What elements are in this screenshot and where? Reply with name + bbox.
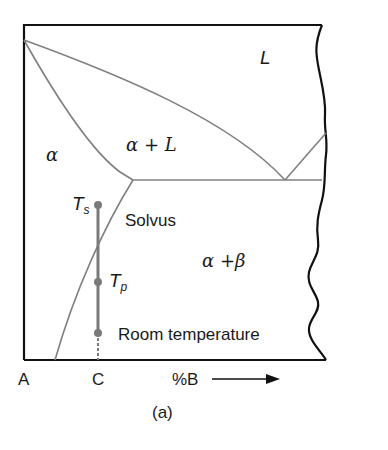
- region-liquid-label: L: [260, 48, 271, 67]
- axis-label-c: C: [92, 371, 104, 388]
- axis-label-percent-b: %B: [172, 371, 198, 388]
- region-alpha-plus-beta-label: α +β: [202, 252, 245, 270]
- diagram-frame: [24, 25, 322, 360]
- wavy-break-edge: [308, 25, 326, 360]
- liquidus-line-beta: [285, 133, 326, 180]
- composition-arrow-head: [266, 374, 280, 384]
- axis-label-a: A: [18, 371, 29, 388]
- figure-caption: (a): [152, 404, 173, 421]
- room-temperature-label: Room temperature: [118, 326, 260, 343]
- region-alpha-label: α: [46, 146, 58, 164]
- point-tp: [94, 278, 102, 286]
- ts-label: Ts: [72, 194, 90, 216]
- region-alpha-plus-liquid-label: α + L: [126, 136, 177, 154]
- solvus-label: Solvus: [125, 212, 176, 229]
- point-room-temperature: [94, 329, 102, 337]
- liquidus-line-alpha: [24, 40, 285, 180]
- point-ts: [94, 201, 102, 209]
- tp-label: Tp: [109, 271, 127, 293]
